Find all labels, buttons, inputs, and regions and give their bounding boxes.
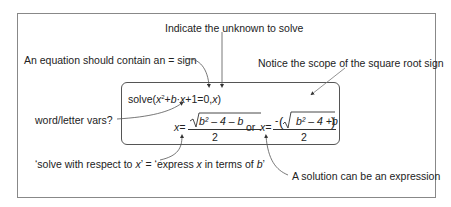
arrow-solution-expression <box>266 136 288 175</box>
svg-text:-: - <box>275 115 278 126</box>
arrow-sqrt-scope <box>312 68 345 94</box>
arrow-respect-to <box>160 136 182 160</box>
arrows-overlay: - ( ) <box>0 0 451 207</box>
sqrt-sign-1 <box>190 113 261 127</box>
svg-text:): ) <box>331 114 335 129</box>
arrow-equals-sign <box>185 59 209 86</box>
sqrt-sign-2 <box>283 112 335 128</box>
svg-text:(: ( <box>279 114 284 129</box>
arrow-word-vars <box>117 103 182 119</box>
